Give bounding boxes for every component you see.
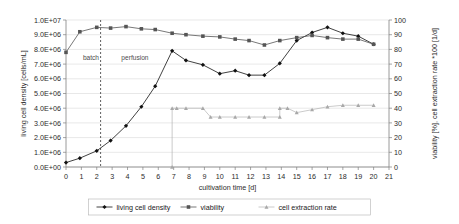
x-tick-label: 17 [323, 172, 331, 181]
x-tick-label: 10 [216, 172, 224, 181]
y-tick-label-left: 3.0E+06 [34, 119, 61, 128]
y-tick-label-left: 4.0E+06 [34, 104, 61, 113]
data-point [356, 37, 360, 41]
x-tick-label: 1 [79, 172, 83, 181]
x-tick-label: 4 [126, 172, 130, 181]
data-point [372, 42, 376, 46]
data-point [263, 43, 267, 47]
y-tick-label-right: 80 [394, 45, 402, 54]
y-tick-label-left: 7.0E+06 [34, 60, 61, 69]
x-axis-title: cultivation time [d] [199, 183, 257, 192]
x-tick-label: 16 [308, 172, 316, 181]
x-tick-label: 8 [187, 172, 191, 181]
phase-label-perfusion: perfusion [121, 54, 148, 62]
legend-marker-square-icon [187, 205, 191, 209]
data-point [170, 31, 174, 35]
data-point [218, 35, 222, 39]
chart-container: 0123456789101112131415161718192021 0.0E+… [0, 0, 459, 224]
data-point [295, 36, 299, 40]
data-point [64, 51, 68, 55]
y-tick-label-right: 10 [394, 148, 402, 157]
y-tick-label-left: 5.0E+06 [34, 89, 61, 98]
x-tick-label: 3 [110, 172, 114, 181]
x-tick-label: 14 [277, 172, 285, 181]
x-tick-label: 5 [141, 172, 145, 181]
legend-label: living cell density [117, 203, 171, 212]
legend-label: cell extraction rate [279, 203, 337, 212]
y-tick-label-right: 50 [394, 89, 402, 98]
x-tick-label: 6 [156, 172, 160, 181]
x-tick-label: 12 [247, 172, 255, 181]
y-tick-label-right: 90 [394, 30, 402, 39]
data-point [247, 39, 251, 43]
data-point [78, 30, 82, 34]
y-tick-label-left: 1.0E+06 [34, 148, 61, 157]
y-tick-label-left: 2.0E+06 [34, 133, 61, 142]
y-tick-label-left: 9.0E+06 [34, 30, 61, 39]
data-point [109, 26, 113, 30]
x-tick-label: 0 [64, 172, 68, 181]
y-tick-label-right: 20 [394, 133, 402, 142]
x-tick-label: 2 [95, 172, 99, 181]
x-tick-label: 11 [231, 172, 238, 181]
data-point [124, 25, 128, 29]
y-tick-label-right: 100 [394, 16, 406, 25]
x-tick-label: 19 [354, 172, 362, 181]
data-point [95, 26, 99, 30]
data-point [310, 34, 314, 38]
y-tick-label-left: 8.0E+06 [34, 45, 61, 54]
data-point [326, 36, 330, 40]
y-tick-label-left: 6.0E+06 [34, 74, 61, 83]
data-point [278, 39, 282, 43]
y-axis-title-right: viability [%], cell extraction rate *100… [430, 28, 439, 159]
data-point [153, 28, 157, 32]
y-tick-label-right: 30 [394, 119, 402, 128]
x-tick-label: 20 [370, 172, 378, 181]
y-axis-title-left: living cell density [cells/mL] [19, 50, 28, 136]
x-tick-label: 13 [262, 172, 270, 181]
data-point [140, 27, 144, 31]
x-tick-label: 21 [385, 172, 393, 181]
y-tick-label-right: 60 [394, 74, 402, 83]
chart-svg: 0123456789101112131415161718192021 0.0E+… [0, 0, 459, 224]
x-tick-label: 7 [172, 172, 176, 181]
data-point [233, 37, 237, 41]
x-tick-label: 9 [202, 172, 206, 181]
y-tick-label-right: 40 [394, 104, 402, 113]
y-tick-label-left: 1.0E+07 [34, 16, 61, 25]
y-tick-label-left: 0.0E+00 [34, 163, 61, 172]
data-point [184, 33, 188, 37]
x-tick-label: 18 [339, 172, 347, 181]
data-point [341, 37, 345, 41]
phase-label-batch: batch [83, 54, 99, 61]
y-tick-label-right: 70 [394, 60, 402, 69]
y-tick-label-right: 0 [394, 163, 398, 172]
chart-legend: living cell densityviabilitycell extract… [89, 199, 371, 215]
legend-label: viability [201, 203, 225, 212]
x-tick-label: 15 [293, 172, 301, 181]
data-point [201, 34, 205, 38]
